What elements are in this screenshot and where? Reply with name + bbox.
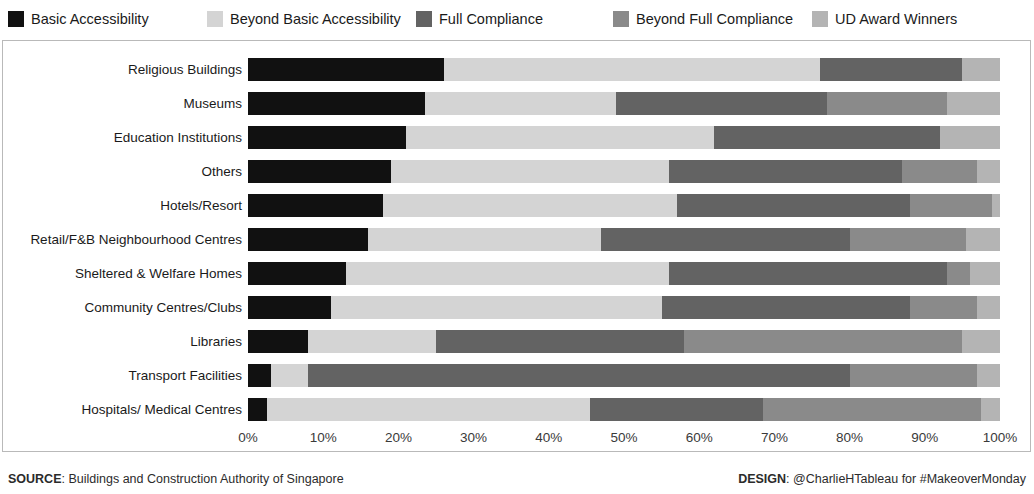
bar-segment[interactable] bbox=[248, 262, 346, 285]
legend-item-label: UD Award Winners bbox=[835, 11, 957, 27]
bar-segment[interactable] bbox=[910, 194, 993, 217]
bar-segment[interactable] bbox=[966, 228, 1000, 251]
bar-segment[interactable] bbox=[977, 364, 1000, 387]
design-label: DESIGN bbox=[738, 472, 786, 486]
bar-segment[interactable] bbox=[977, 296, 1000, 319]
x-axis-tick: 60% bbox=[686, 430, 713, 445]
bar-segment[interactable] bbox=[383, 194, 676, 217]
legend-item-label: Beyond Full Compliance bbox=[636, 11, 793, 27]
design-text: : @CharlieHTableau for #MakeoverMonday bbox=[786, 472, 1026, 486]
stacked-bar bbox=[248, 126, 1000, 149]
category-label: Religious Buildings bbox=[128, 52, 242, 86]
bar-segment[interactable] bbox=[962, 58, 1000, 81]
x-axis-tick: 40% bbox=[535, 430, 562, 445]
bar-segment[interactable] bbox=[962, 330, 1000, 353]
chart-row: Others bbox=[0, 154, 1034, 188]
bar-segment[interactable] bbox=[677, 194, 910, 217]
x-axis-tick: 10% bbox=[310, 430, 337, 445]
design-note: DESIGN: @CharlieHTableau for #MakeoverMo… bbox=[738, 472, 1026, 486]
legend-item-4[interactable]: UD Award Winners bbox=[812, 11, 957, 27]
legend-swatch-icon bbox=[207, 11, 223, 27]
bar-segment[interactable] bbox=[850, 228, 967, 251]
chart-row: Religious Buildings bbox=[0, 52, 1034, 86]
bar-segment[interactable] bbox=[391, 160, 669, 183]
bar-segment[interactable] bbox=[981, 398, 1000, 421]
bar-segment[interactable] bbox=[940, 126, 1000, 149]
chart-legend: Basic AccessibilityBeyond Basic Accessib… bbox=[0, 0, 1034, 40]
chart-footer: SOURCE: Buildings and Construction Autho… bbox=[0, 468, 1034, 494]
x-axis-tick: 100% bbox=[983, 430, 1018, 445]
category-label: Hospitals/ Medical Centres bbox=[81, 392, 242, 426]
bar-segment[interactable] bbox=[248, 398, 267, 421]
category-label: Others bbox=[201, 154, 242, 188]
bar-segment[interactable] bbox=[850, 364, 978, 387]
legend-swatch-icon bbox=[8, 11, 24, 27]
category-label: Hotels/Resort bbox=[160, 188, 242, 222]
bar-segment[interactable] bbox=[970, 262, 1000, 285]
stacked-bar bbox=[248, 160, 1000, 183]
x-axis-tick: 30% bbox=[460, 430, 487, 445]
bar-segment[interactable] bbox=[248, 364, 271, 387]
bar-segment[interactable] bbox=[827, 92, 947, 115]
chart-row: Hospitals/ Medical Centres bbox=[0, 392, 1034, 426]
x-axis: 0%10%20%30%40%50%60%70%80%90%100% bbox=[0, 430, 1034, 452]
bar-segment[interactable] bbox=[444, 58, 820, 81]
bar-segment[interactable] bbox=[436, 330, 684, 353]
legend-item-3[interactable]: Beyond Full Compliance bbox=[613, 11, 793, 27]
x-axis-tick: 70% bbox=[761, 430, 788, 445]
stacked-bar-chart: Basic AccessibilityBeyond Basic Accessib… bbox=[0, 0, 1034, 494]
bar-segment[interactable] bbox=[601, 228, 849, 251]
bar-segment[interactable] bbox=[763, 398, 981, 421]
bar-segment[interactable] bbox=[669, 262, 947, 285]
bar-segment[interactable] bbox=[714, 126, 940, 149]
bar-segment[interactable] bbox=[910, 296, 978, 319]
bar-segment[interactable] bbox=[425, 92, 617, 115]
bar-segment[interactable] bbox=[616, 92, 827, 115]
category-label: Transport Facilities bbox=[128, 358, 242, 392]
bar-segment[interactable] bbox=[248, 194, 383, 217]
bar-segment[interactable] bbox=[248, 296, 331, 319]
bar-segment[interactable] bbox=[977, 160, 1000, 183]
legend-swatch-icon bbox=[812, 11, 828, 27]
x-axis-tick: 90% bbox=[911, 430, 938, 445]
bar-segment[interactable] bbox=[406, 126, 714, 149]
stacked-bar bbox=[248, 58, 1000, 81]
bar-segment[interactable] bbox=[992, 194, 1000, 217]
legend-item-2[interactable]: Full Compliance bbox=[416, 11, 543, 27]
bar-segment[interactable] bbox=[902, 160, 977, 183]
chart-row: Libraries bbox=[0, 324, 1034, 358]
bar-segment[interactable] bbox=[346, 262, 669, 285]
bar-segment[interactable] bbox=[662, 296, 910, 319]
bar-segment[interactable] bbox=[669, 160, 902, 183]
bar-segment[interactable] bbox=[248, 330, 308, 353]
bar-segment[interactable] bbox=[248, 92, 425, 115]
chart-row: Museums bbox=[0, 86, 1034, 120]
x-axis-tick: 0% bbox=[238, 430, 258, 445]
bar-segment[interactable] bbox=[820, 58, 963, 81]
legend-item-0[interactable]: Basic Accessibility bbox=[8, 11, 149, 27]
source-text: : Buildings and Construction Authority o… bbox=[61, 472, 343, 486]
bar-segment[interactable] bbox=[947, 92, 1000, 115]
stacked-bar bbox=[248, 296, 1000, 319]
stacked-bar bbox=[248, 262, 1000, 285]
bar-segment[interactable] bbox=[331, 296, 662, 319]
bar-segment[interactable] bbox=[308, 364, 849, 387]
bar-segment[interactable] bbox=[368, 228, 601, 251]
source-note: SOURCE: Buildings and Construction Autho… bbox=[8, 472, 344, 486]
bar-segment[interactable] bbox=[947, 262, 970, 285]
legend-item-label: Beyond Basic Accessibility bbox=[230, 11, 401, 27]
bar-segment[interactable] bbox=[248, 126, 406, 149]
chart-row: Community Centres/Clubs bbox=[0, 290, 1034, 324]
bar-segment[interactable] bbox=[308, 330, 436, 353]
bar-segment[interactable] bbox=[684, 330, 962, 353]
bar-segment[interactable] bbox=[590, 398, 763, 421]
bar-segment[interactable] bbox=[248, 228, 368, 251]
legend-swatch-icon bbox=[613, 11, 629, 27]
legend-item-1[interactable]: Beyond Basic Accessibility bbox=[207, 11, 401, 27]
chart-row: Education Institutions bbox=[0, 120, 1034, 154]
bar-segment[interactable] bbox=[267, 398, 590, 421]
bar-segment[interactable] bbox=[271, 364, 309, 387]
bar-segment[interactable] bbox=[248, 58, 444, 81]
bar-segment[interactable] bbox=[248, 160, 391, 183]
chart-rows: Religious BuildingsMuseumsEducation Inst… bbox=[0, 52, 1034, 426]
